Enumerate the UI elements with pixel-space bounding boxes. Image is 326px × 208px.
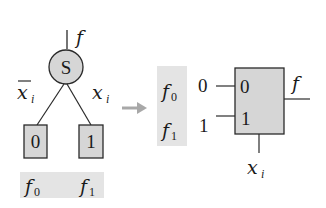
select-var: x [247, 156, 258, 178]
bdd-to-mux-diagram: f S x i x i 0 1 f 0 f 1 [0, 0, 326, 208]
input-0-function-sub: 0 [171, 90, 177, 104]
edge-left [37, 84, 64, 125]
tree-output-label: f [74, 26, 86, 48]
root-node-label: S [61, 57, 72, 78]
left-edge-label: x i [17, 81, 34, 106]
mux-port-0-label: 0 [240, 76, 250, 97]
leaf-0-label: 0 [31, 131, 41, 152]
left-edge-var: x [17, 81, 28, 103]
transform-arrow-icon [122, 102, 147, 114]
input-0-value: 0 [198, 75, 208, 96]
decision-tree: f S x i x i 0 1 f 0 f 1 [17, 26, 109, 199]
mux-output-label: f [290, 72, 302, 94]
select-sub: i [261, 167, 264, 181]
input-1-function-sub: 1 [171, 129, 177, 143]
leaf-1-label: 1 [86, 131, 96, 152]
right-edge-var: x [92, 81, 103, 103]
right-edge-label: x i [92, 81, 109, 106]
leaf-0-function-sub: 0 [34, 185, 40, 199]
multiplexer: f 0 f 1 0 1 0 1 f x i [157, 66, 310, 181]
mux-port-1-label: 1 [241, 108, 251, 129]
leaf-1-function-sub: 1 [89, 185, 95, 199]
edge-right [67, 84, 91, 125]
left-edge-sub: i [31, 92, 34, 106]
input-1-value: 1 [199, 115, 209, 136]
right-edge-sub: i [106, 92, 109, 106]
